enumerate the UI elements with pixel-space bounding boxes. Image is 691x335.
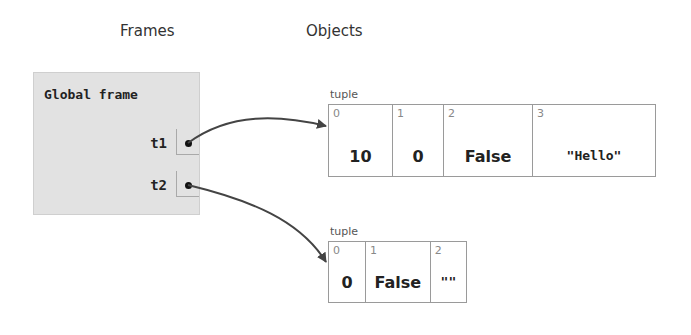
pointer-arrows [0, 0, 691, 335]
arrow-t2-to-tuple-2 [188, 185, 326, 262]
arrow-t1-to-tuple-1 [188, 118, 326, 143]
